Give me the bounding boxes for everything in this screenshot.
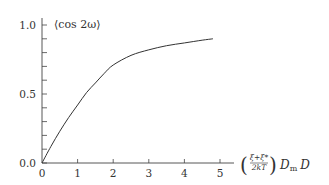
y-axis-label: ⟨cos 2ω⟩ — [54, 18, 100, 31]
svg-text:DmD: DmD — [279, 158, 310, 173]
chart: 0.00.51.0 012345 ⟨cos 2ω⟩ ( ξ+ξ* 2kT ) D… — [0, 0, 329, 185]
svg-text:(: ( — [240, 153, 248, 177]
svg-text:): ) — [269, 153, 277, 177]
x-ticks: 012345 — [39, 159, 224, 179]
x-axis-label: ( ξ+ξ* 2kT ) DmD — [240, 153, 310, 177]
x-tick-label: 4 — [181, 167, 188, 179]
x-tick-label: 1 — [74, 167, 81, 179]
y-tick-label: 0.0 — [19, 157, 36, 169]
y-tick-label: 0.5 — [19, 88, 36, 100]
x-tick-label: 0 — [39, 167, 46, 179]
x-label-numerator: ξ+ξ* — [250, 153, 269, 162]
y-tick-label: 1.0 — [19, 19, 36, 31]
x-tick-label: 5 — [217, 167, 224, 179]
x-tick-label: 3 — [145, 167, 152, 179]
data-line — [42, 39, 213, 163]
y-ticks: 0.00.51.0 — [19, 19, 47, 169]
x-tick-label: 2 — [110, 167, 117, 179]
x-label-denominator: 2kT — [251, 163, 267, 172]
